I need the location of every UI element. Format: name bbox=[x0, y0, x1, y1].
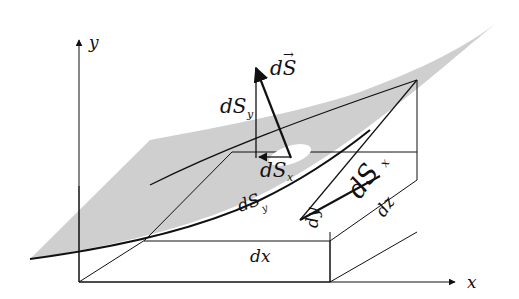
y-axis-label: y bbox=[88, 32, 99, 52]
dSy-label: dS bbox=[220, 94, 247, 118]
dSy-label-sub: y bbox=[246, 108, 254, 121]
curved-surface bbox=[30, 20, 500, 259]
dSx-face-label: dS bbox=[340, 158, 384, 203]
dSy-face-sub: y bbox=[259, 201, 269, 214]
dSx-label-sub: x bbox=[287, 171, 294, 184]
dS-arrow-mark: → bbox=[283, 47, 294, 62]
surface-element-diagram: y x dS → dS y dS x dx dy dz dS x dS y bbox=[0, 0, 519, 299]
dSx-face-sub: x bbox=[377, 156, 392, 170]
dx-label: dx bbox=[250, 246, 271, 266]
dy-label: dy bbox=[302, 207, 322, 228]
dSx-label: dS bbox=[260, 158, 287, 182]
x-axis-label: x bbox=[467, 272, 477, 292]
